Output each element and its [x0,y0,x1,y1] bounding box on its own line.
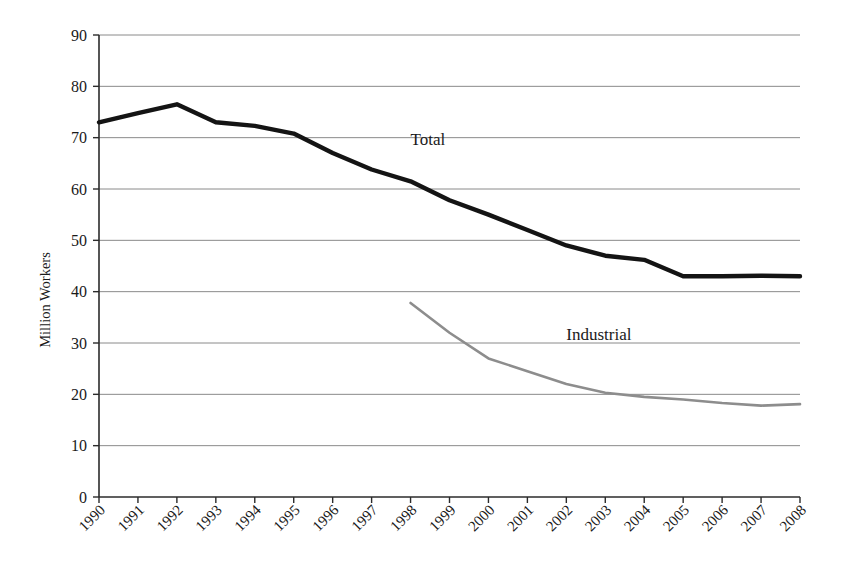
y-tick-label: 90 [71,27,87,44]
series-annotation: Total [411,130,446,149]
series-line-industrial [411,303,800,406]
line-chart: 0102030405060708090 19901991199219931994… [0,0,841,572]
series-annotations-group: TotalIndustrial [411,130,632,344]
x-tick-label: 1990 [76,502,109,535]
y-tick-label: 70 [71,129,87,146]
x-tick-label: 1992 [153,502,186,535]
x-tick-label: 2003 [582,502,615,535]
x-tick-label: 2002 [543,502,576,535]
x-tick-label: 2007 [738,501,771,534]
y-axis-title: Million Workers [37,252,53,348]
x-tick-label: 2006 [699,501,732,534]
x-tick-label: 2000 [465,502,498,535]
x-tick-label: 2004 [621,501,654,534]
series-line-total [99,104,800,276]
x-tick-label: 1998 [387,502,420,535]
y-tick-label: 60 [71,181,87,198]
y-tick-label: 30 [71,335,87,352]
y-tick-label: 20 [71,386,87,403]
x-tick-label: 1993 [192,502,225,535]
x-tick-labels-group: 1990199119921993199419951996199719981999… [76,501,810,534]
x-tick-label: 1997 [348,501,381,534]
x-tick-label: 1995 [270,502,303,535]
tick-marks-group [93,35,800,503]
x-tick-label: 1991 [115,502,148,535]
x-tick-label: 2001 [504,502,537,535]
y-tick-label: 50 [71,232,87,249]
x-tick-label: 1994 [231,501,264,534]
chart-figure: 0102030405060708090 19901991199219931994… [0,0,841,572]
x-tick-label: 1996 [309,501,342,534]
y-tick-label: 0 [79,489,87,506]
y-tick-label: 40 [71,283,87,300]
x-tick-label: 1999 [426,502,459,535]
series-annotation: Industrial [566,325,631,344]
y-tick-label: 10 [71,437,87,454]
x-tick-label: 2005 [660,502,693,535]
gridlines-group [99,35,800,446]
y-tick-labels-group: 0102030405060708090 [71,27,87,506]
x-tick-label: 2008 [777,502,810,535]
y-tick-label: 80 [71,78,87,95]
